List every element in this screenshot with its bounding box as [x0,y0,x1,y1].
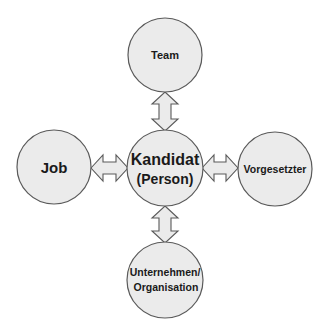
node-job-label: Job [41,159,68,176]
node-kandidat: Kandidat (Person) [127,130,203,206]
node-organisation-label: Organisation [134,281,199,293]
arrow-center-job [91,155,128,181]
node-vorgesetzter-label: Vorgesetzter [244,163,307,175]
node-kandidat-label: Kandidat [131,151,200,168]
node-team: Team [128,18,202,92]
node-unternehmen-label: Unternehmen/ [130,266,201,278]
node-unternehmen: Unternehmen/ Organisation [127,242,203,318]
arrow-center-unternehmen [152,206,178,243]
node-job: Job [17,130,91,204]
arrow-center-team [152,92,178,131]
arrow-center-vorgesetzter [202,155,238,181]
relationship-diagram: Team Job Kandidat (Person) Vorgesetzter … [0,0,326,334]
node-kandidat-sublabel: (Person) [137,171,194,187]
node-vorgesetzter: Vorgesetzter [238,132,312,206]
node-team-label: Team [151,49,179,61]
